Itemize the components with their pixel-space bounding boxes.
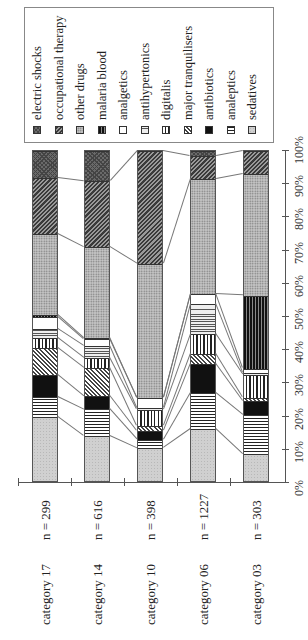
x-axis-tick bbox=[177, 478, 178, 486]
x-axis-tick bbox=[18, 478, 19, 486]
legend-label: antihypertonics bbox=[138, 43, 153, 120]
bar-segment-major-tranquilisers bbox=[33, 348, 57, 375]
legend-label: analgetics bbox=[116, 70, 131, 120]
bar-segment-occupational-therapy bbox=[191, 156, 215, 179]
connector-line bbox=[58, 177, 84, 181]
y-axis-tick bbox=[282, 482, 289, 483]
bar-segment-antihypertonics bbox=[33, 329, 57, 338]
category-axis bbox=[18, 482, 286, 483]
category-label: category 14 bbox=[90, 564, 106, 625]
legend-swatch-icon bbox=[205, 126, 213, 134]
bar-segment-major-tranquilisers bbox=[191, 354, 215, 364]
y-axis-tick-label: 40% bbox=[292, 341, 307, 363]
y-axis-tick bbox=[282, 216, 289, 217]
connector-line bbox=[57, 314, 84, 338]
category-n-label: n = 303 bbox=[249, 500, 265, 540]
bar-segment-occupational-therapy bbox=[33, 178, 57, 234]
bar-segment-digitalis bbox=[244, 375, 268, 398]
legend-swatch-icon bbox=[33, 126, 41, 134]
connector-line bbox=[216, 293, 243, 295]
bar-segment-antibiotics bbox=[191, 364, 215, 393]
bar-category-17 bbox=[32, 150, 58, 482]
y-axis-tick-label: 30% bbox=[292, 374, 307, 396]
bar-segment-other-drugs bbox=[33, 234, 57, 315]
connector-line bbox=[110, 150, 138, 181]
connector-line bbox=[57, 347, 84, 368]
legend-swatch-icon bbox=[141, 126, 149, 134]
legend-swatch-icon bbox=[162, 126, 170, 134]
y-axis-tick-label: 70% bbox=[292, 242, 307, 264]
connector-line bbox=[57, 416, 84, 436]
connector-line bbox=[215, 428, 243, 454]
bar-segment-digitalis bbox=[85, 358, 109, 368]
category-label: category 17 bbox=[38, 564, 54, 625]
category-n-label: n = 1227 bbox=[196, 494, 212, 540]
legend-swatch-icon bbox=[76, 126, 84, 134]
bar-segment-antibiotics bbox=[244, 401, 268, 414]
y-axis-tick-label: 50% bbox=[292, 308, 307, 330]
bar-segment-electric-shocks bbox=[191, 151, 215, 156]
category-label: category 03 bbox=[249, 564, 265, 625]
legend-label: analeptics bbox=[224, 70, 239, 120]
y-axis-tick bbox=[282, 183, 289, 184]
bar-segment-major-tranquilisers bbox=[244, 398, 268, 401]
y-axis-tick bbox=[282, 283, 289, 284]
y-axis-tick-label: 20% bbox=[292, 408, 307, 430]
connector-line bbox=[215, 293, 243, 368]
bar-segment-analeptics bbox=[85, 409, 109, 436]
legend-label: digitalis bbox=[159, 80, 174, 120]
legend-label: malaria blood bbox=[95, 51, 110, 120]
bar-segment-antihypertonics bbox=[191, 304, 215, 334]
bar-segment-analeptics bbox=[138, 440, 162, 449]
bar-segment-sedatives bbox=[244, 454, 268, 482]
bar-segment-analeptics bbox=[33, 397, 57, 417]
connector-line bbox=[57, 374, 84, 396]
bar-category-06 bbox=[190, 150, 216, 482]
legend-label: occupational therapy bbox=[52, 16, 67, 120]
connector-line bbox=[163, 178, 191, 263]
category-n-label: n = 398 bbox=[143, 500, 159, 540]
bar-segment-antihypertonics bbox=[244, 373, 268, 374]
y-axis-tick bbox=[282, 250, 289, 251]
bar-segment-analgetics bbox=[191, 294, 215, 304]
bar-segment-antibiotics bbox=[138, 431, 162, 439]
bar-segment-analeptics bbox=[191, 393, 215, 430]
y-axis-tick bbox=[282, 316, 289, 317]
x-axis-tick bbox=[124, 478, 125, 486]
legend-label: electric shocks bbox=[30, 46, 45, 120]
legend-label: sedatives bbox=[245, 74, 260, 120]
y-axis-tick bbox=[282, 349, 289, 350]
y-axis-tick bbox=[282, 416, 289, 417]
legend-label: other drugs bbox=[73, 63, 88, 120]
y-axis-tick bbox=[282, 150, 289, 151]
connector-line bbox=[110, 435, 137, 448]
y-axis-tick-label: 100% bbox=[292, 136, 307, 164]
connector-line bbox=[163, 150, 190, 156]
bar-segment-analgetics bbox=[33, 317, 57, 329]
category-n-label: n = 616 bbox=[90, 500, 106, 540]
bar-segment-major-tranquilisers bbox=[138, 426, 162, 431]
bar-segment-sedatives bbox=[138, 448, 162, 482]
y-axis-tick-label: 0% bbox=[292, 480, 307, 496]
bar-segment-occupational-therapy bbox=[244, 151, 268, 174]
y-axis-tick-label: 10% bbox=[292, 441, 307, 463]
bar-segment-major-tranquilisers bbox=[85, 368, 109, 396]
bar-category-03 bbox=[243, 150, 269, 482]
bar-segment-digitalis bbox=[138, 410, 162, 427]
legend-swatch-icon bbox=[227, 126, 235, 134]
bar-category-10 bbox=[137, 150, 163, 482]
bar-segment-antibiotics bbox=[33, 375, 57, 397]
legend: electric shocksoccupational therapyother… bbox=[24, 7, 274, 143]
x-axis-tick bbox=[71, 478, 72, 486]
bar-segment-digitalis bbox=[33, 338, 57, 348]
bar-segment-other-drugs bbox=[244, 174, 268, 296]
bar-segment-analeptics bbox=[244, 415, 268, 455]
y-axis-tick bbox=[282, 449, 289, 450]
bar-segment-malaria-blood bbox=[244, 296, 268, 369]
bar-segment-malaria-blood bbox=[33, 315, 57, 317]
category-n-label: n = 299 bbox=[38, 500, 54, 540]
bar-segment-analgetics bbox=[244, 369, 268, 373]
connector-line bbox=[109, 246, 137, 263]
x-axis-tick bbox=[230, 478, 231, 486]
bar-segment-analgetics bbox=[138, 398, 162, 408]
